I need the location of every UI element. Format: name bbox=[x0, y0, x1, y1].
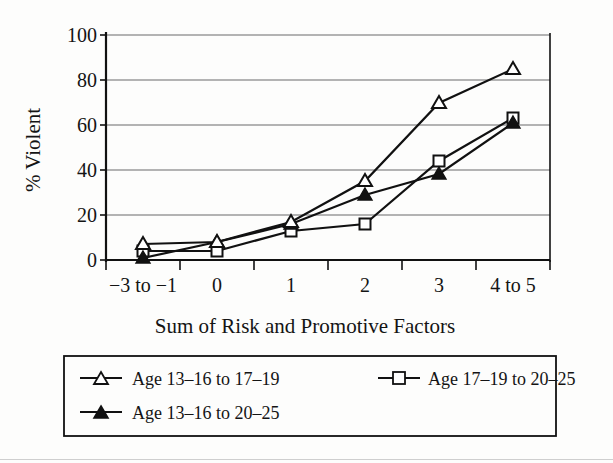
series-age-17-19-to-20-25 bbox=[138, 113, 519, 257]
legend-entry-age-13-16-to-17-19[interactable]: Age 13–16 to 17–19 bbox=[80, 369, 280, 389]
series-markers-filled-triangle bbox=[136, 116, 520, 263]
legend-label: Age 13–16 to 20–25 bbox=[132, 403, 280, 423]
y-tick-label-100: 100 bbox=[67, 24, 97, 46]
y-tick-label-20: 20 bbox=[77, 204, 97, 226]
chart-figure: 100 80 60 40 20 0 bbox=[0, 0, 613, 463]
data-point-marker bbox=[506, 62, 520, 74]
data-point-marker bbox=[432, 96, 446, 108]
x-axis-tick-labels: −3 to −1 0 1 2 3 4 to 5 bbox=[109, 274, 536, 296]
x-tick-label-3: 3 bbox=[434, 274, 444, 296]
y-tick-label-60: 60 bbox=[77, 114, 97, 136]
legend-entry-age-17-19-to-20-25[interactable]: Age 17–19 to 20–25 bbox=[378, 369, 576, 389]
data-point-marker bbox=[360, 219, 371, 230]
legend-label: Age 17–19 to 20–25 bbox=[428, 369, 576, 389]
data-point-marker bbox=[434, 156, 445, 167]
data-point-marker bbox=[432, 167, 446, 179]
page-bottom-rule bbox=[0, 459, 613, 460]
open-square-icon bbox=[393, 372, 405, 384]
series-line-filled-triangle bbox=[143, 123, 513, 258]
y-tick-label-80: 80 bbox=[77, 69, 97, 91]
x-tick-label-1: 1 bbox=[286, 274, 296, 296]
x-tick-label-2: 2 bbox=[360, 274, 370, 296]
series-age-13-16-to-20-25 bbox=[136, 116, 520, 263]
line-chart: 100 80 60 40 20 0 bbox=[0, 0, 613, 463]
y-tick-label-40: 40 bbox=[77, 159, 97, 181]
y-axis-tick-labels: 100 80 60 40 20 0 bbox=[67, 24, 97, 271]
x-axis-tick-marks bbox=[106, 260, 550, 270]
series-age-13-16-to-17-19 bbox=[136, 62, 520, 249]
x-tick-label-4-to-5: 4 to 5 bbox=[490, 274, 536, 296]
legend-entry-age-13-16-to-20-25[interactable]: Age 13–16 to 20–25 bbox=[80, 403, 280, 423]
chart-legend: Age 13–16 to 17–19 Age 17–19 to 20–25 Ag… bbox=[64, 356, 576, 436]
series-line-open-triangle bbox=[143, 69, 513, 244]
legend-box bbox=[64, 356, 556, 436]
x-tick-label-0: 0 bbox=[212, 274, 222, 296]
gridlines bbox=[106, 35, 550, 215]
series-markers-open-triangle bbox=[136, 62, 520, 249]
x-tick-label-neg3-to-neg1: −3 to −1 bbox=[109, 274, 177, 296]
series-line-open-square bbox=[143, 118, 513, 251]
x-axis-title: Sum of Risk and Promotive Factors bbox=[155, 314, 455, 338]
legend-label: Age 13–16 to 17–19 bbox=[132, 369, 280, 389]
y-axis-title: % Violent bbox=[21, 108, 45, 192]
series-markers-open-square bbox=[138, 113, 519, 257]
y-tick-label-0: 0 bbox=[87, 249, 97, 271]
